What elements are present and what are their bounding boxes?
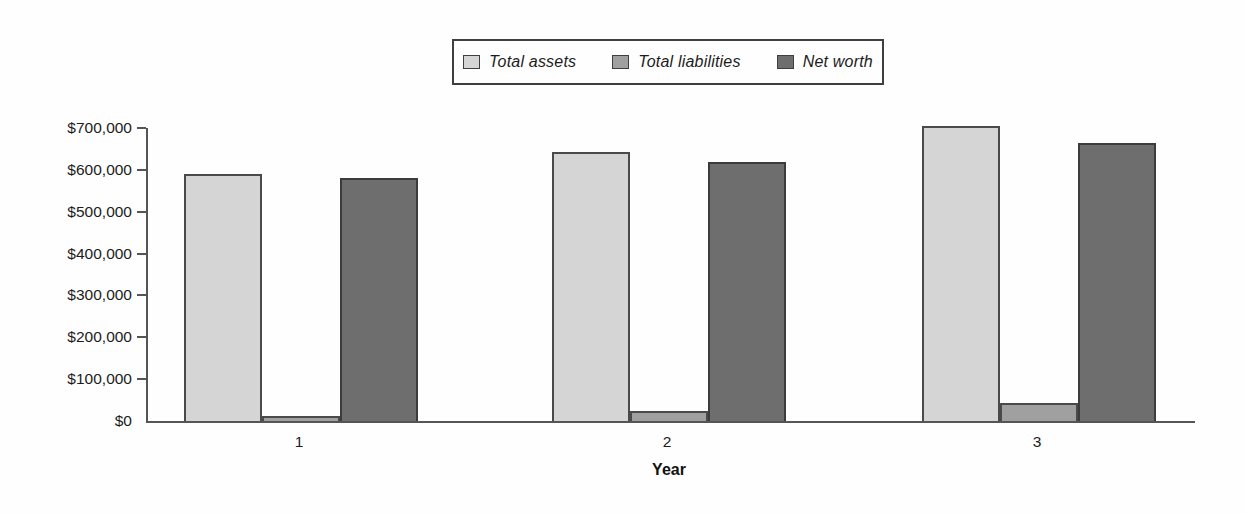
bar-total-assets-year-1 — [184, 174, 262, 421]
y-axis-tick-mark — [137, 378, 146, 380]
y-axis-tick-label: $400,000 — [67, 245, 132, 263]
chart-legend: Total assetsTotal liabilitiesNet worth — [452, 39, 884, 85]
legend-label: Total liabilities — [638, 53, 740, 71]
y-axis-tick-mark — [137, 336, 146, 338]
y-axis-tick-label: $500,000 — [67, 203, 132, 221]
y-axis-tick-label: $700,000 — [67, 119, 132, 137]
y-axis-tick-mark — [137, 169, 146, 171]
legend-item-net-worth: Net worth — [777, 53, 873, 71]
legend-item-total-assets: Total assets — [463, 53, 576, 71]
bar-total-assets-year-2 — [552, 152, 630, 421]
bar-group-year-3 — [922, 126, 1156, 421]
bar-net-worth-year-2 — [708, 162, 786, 421]
bar-total-liabilities-year-3 — [1000, 403, 1078, 421]
legend-swatch-icon — [463, 55, 480, 69]
x-axis-tick-label: 1 — [295, 433, 304, 451]
y-axis-tick-label: $200,000 — [67, 328, 132, 346]
x-axis-tick-label: 2 — [663, 433, 672, 451]
bar-total-liabilities-year-2 — [630, 411, 708, 421]
bar-net-worth-year-1 — [340, 178, 418, 421]
legend-swatch-icon — [777, 55, 794, 69]
y-axis-tick-label: $600,000 — [67, 161, 132, 179]
bar-group-year-1 — [184, 174, 418, 421]
y-axis-tick-label: $300,000 — [67, 286, 132, 304]
y-axis-tick-mark — [137, 253, 146, 255]
bar-total-assets-year-3 — [922, 126, 1000, 421]
x-axis-title: Year — [652, 461, 686, 479]
plot-area: $0$100,000$200,000$300,000$400,000$500,0… — [146, 128, 1195, 423]
legend-item-total-liabilities: Total liabilities — [612, 53, 740, 71]
legend-swatch-icon — [612, 55, 629, 69]
legend-label: Total assets — [489, 53, 576, 71]
y-axis-tick-label: $100,000 — [67, 370, 132, 388]
bar-total-liabilities-year-1 — [262, 416, 340, 421]
y-axis-tick-mark — [137, 294, 146, 296]
y-axis-tick-mark — [137, 211, 146, 213]
y-axis-tick-mark — [137, 127, 146, 129]
legend-label: Net worth — [803, 53, 873, 71]
x-axis-tick-label: 3 — [1033, 433, 1042, 451]
y-axis-tick-label: $0 — [115, 412, 132, 430]
bar-group-year-2 — [552, 152, 786, 421]
bar-chart-figure: Total assetsTotal liabilitiesNet worth $… — [0, 0, 1246, 514]
bar-net-worth-year-3 — [1078, 143, 1156, 421]
